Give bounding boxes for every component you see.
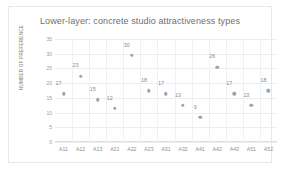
data-point (267, 89, 270, 92)
chart-container: Lower-layer: concrete studio attractiven… (8, 6, 272, 163)
x-axis-tick-label: A21 (110, 146, 119, 152)
data-point (62, 92, 65, 95)
x-axis-tick-label: A13 (93, 146, 102, 152)
x-axis-tick-label: A52 (264, 146, 273, 152)
vertical-gridline (123, 39, 124, 142)
data-point (164, 92, 167, 95)
y-axis-tick-label: 15 (46, 95, 52, 101)
data-point-label: 13 (175, 92, 181, 98)
x-axis-tick-label: A12 (76, 146, 85, 152)
data-point (96, 98, 99, 101)
vertical-gridline (243, 39, 244, 142)
y-axis-tick-label: 25 (46, 65, 52, 71)
vertical-gridline (140, 39, 141, 142)
x-axis-tick-label: A11 (59, 146, 68, 152)
data-point-label: 18 (141, 77, 147, 83)
data-point (233, 92, 236, 95)
data-point-label: 9 (194, 104, 197, 110)
data-point-label: 30 (124, 42, 130, 48)
data-point (113, 107, 116, 110)
x-axis-tick-label: A31 (161, 146, 170, 152)
data-point-label: 12 (107, 95, 113, 101)
vertical-gridline (192, 39, 193, 142)
data-point-label: 17 (226, 80, 232, 86)
data-point-label: 15 (90, 86, 96, 92)
vertical-gridline (72, 39, 73, 142)
data-point-label: 18 (260, 77, 266, 83)
data-point-label: 17 (56, 80, 62, 86)
data-point (198, 116, 201, 119)
y-axis-tick-label: 5 (49, 124, 52, 130)
y-axis-tick-label: 35 (46, 36, 52, 42)
x-axis-tick-label: A41 (196, 146, 205, 152)
x-axis-tick-label: A42 (213, 146, 222, 152)
data-point (130, 54, 133, 57)
x-axis-tick-label: A43 (230, 146, 239, 152)
y-axis-tick-label: 0 (49, 139, 52, 145)
data-point-label: 26 (209, 53, 215, 59)
data-point (79, 74, 82, 77)
x-axis-tick-label: A51 (247, 146, 256, 152)
plot-area: 05101520253035A1117A1223A1315A2112A2230A… (55, 39, 277, 142)
x-axis-tick-label: A22 (127, 146, 136, 152)
data-point-label: 13 (243, 92, 249, 98)
y-axis-tick-label: 20 (46, 80, 52, 86)
vertical-gridline (226, 39, 227, 142)
y-axis-tick-label: 30 (46, 51, 52, 57)
data-point (181, 104, 184, 107)
data-point-label: 23 (73, 62, 79, 68)
chart-screenshot: Lower-layer: concrete studio attractiven… (0, 0, 282, 172)
vertical-gridline (175, 39, 176, 142)
data-point-label: 17 (158, 80, 164, 86)
y-axis-tick-label: 10 (46, 110, 52, 116)
data-point (147, 89, 150, 92)
data-point (250, 104, 253, 107)
vertical-gridline (157, 39, 158, 142)
chart-title: Lower-layer: concrete studio attractiven… (9, 16, 271, 26)
x-axis-tick-label: A23 (144, 146, 153, 152)
gridline (55, 142, 277, 143)
vertical-gridline (260, 39, 261, 142)
vertical-gridline (106, 39, 107, 142)
y-axis-title: NUMBER OF PREFERENCE (19, 16, 24, 100)
x-axis-tick-label: A32 (178, 146, 187, 152)
